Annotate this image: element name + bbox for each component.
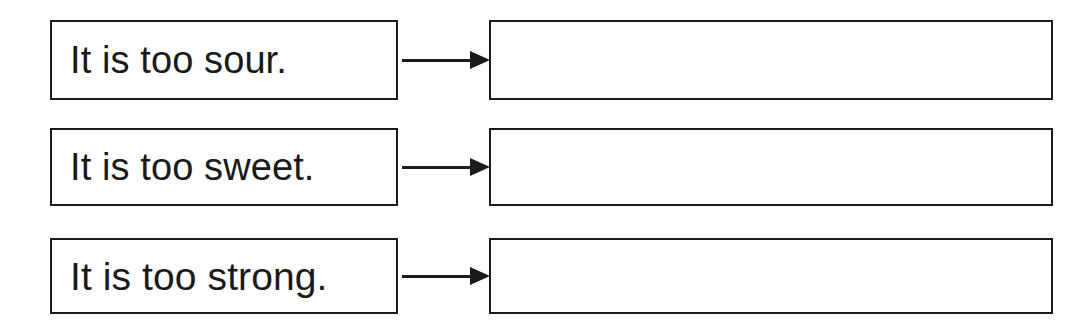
prompt-box-2[interactable]: It is too sweet. — [50, 128, 398, 206]
right-arrow-icon-3 — [402, 266, 490, 286]
prompt-box-1[interactable]: It is too sour. — [50, 20, 398, 100]
answer-box-3[interactable] — [489, 238, 1053, 314]
arrow-head — [470, 158, 490, 176]
prompt-text-1: It is too sour. — [52, 41, 287, 79]
arrow-head — [470, 267, 490, 285]
right-arrow-icon-1 — [402, 50, 490, 70]
prompt-text-2: It is too sweet. — [52, 148, 314, 186]
diagram-row: It is too sweet. — [0, 128, 1092, 206]
right-arrow-icon-2 — [402, 157, 490, 177]
arrow-shaft — [402, 166, 474, 169]
prompt-box-3[interactable]: It is too strong. — [50, 238, 398, 314]
arrow-shaft — [402, 275, 474, 278]
answer-box-2[interactable] — [489, 128, 1053, 206]
diagram-row: It is too strong. — [0, 238, 1092, 314]
prompt-text-3: It is too strong. — [52, 257, 328, 296]
worksheet-diagram: It is too sour. It is too sweet. It is t… — [0, 0, 1092, 333]
diagram-row: It is too sour. — [0, 20, 1092, 100]
arrow-head — [470, 51, 490, 69]
arrow-shaft — [402, 59, 474, 62]
answer-box-1[interactable] — [489, 20, 1053, 100]
